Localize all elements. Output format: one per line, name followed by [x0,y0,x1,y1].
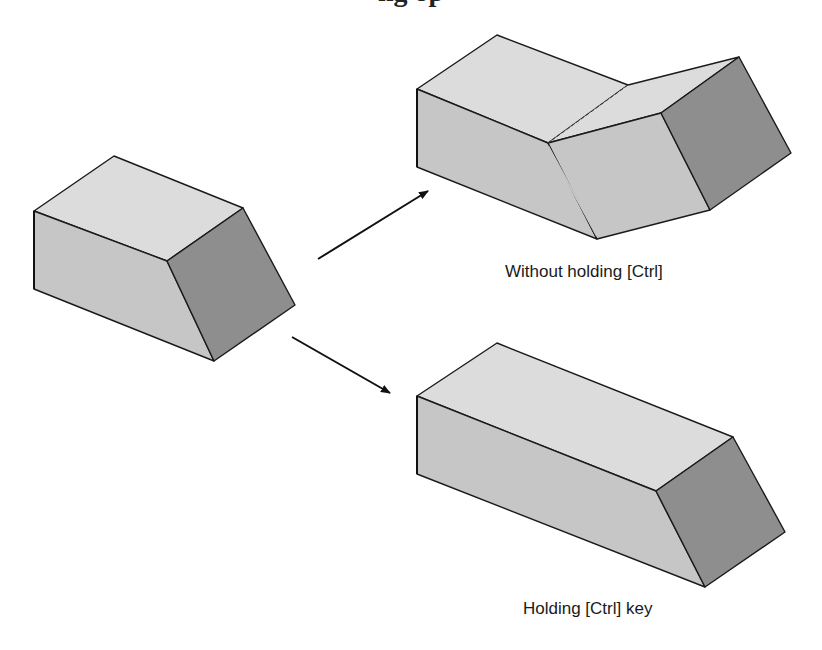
holding-ctrl-block [417,343,785,587]
diagram-canvas [0,0,822,650]
arrow-to-without-ctrl-icon [318,191,428,259]
caption-without-ctrl: Without holding [Ctrl] [505,262,663,282]
without-ctrl-block [417,35,791,239]
original-block [34,156,295,361]
arrow-to-holding-ctrl-icon [292,337,390,393]
caption-holding-ctrl: Holding [Ctrl] key [523,599,652,619]
